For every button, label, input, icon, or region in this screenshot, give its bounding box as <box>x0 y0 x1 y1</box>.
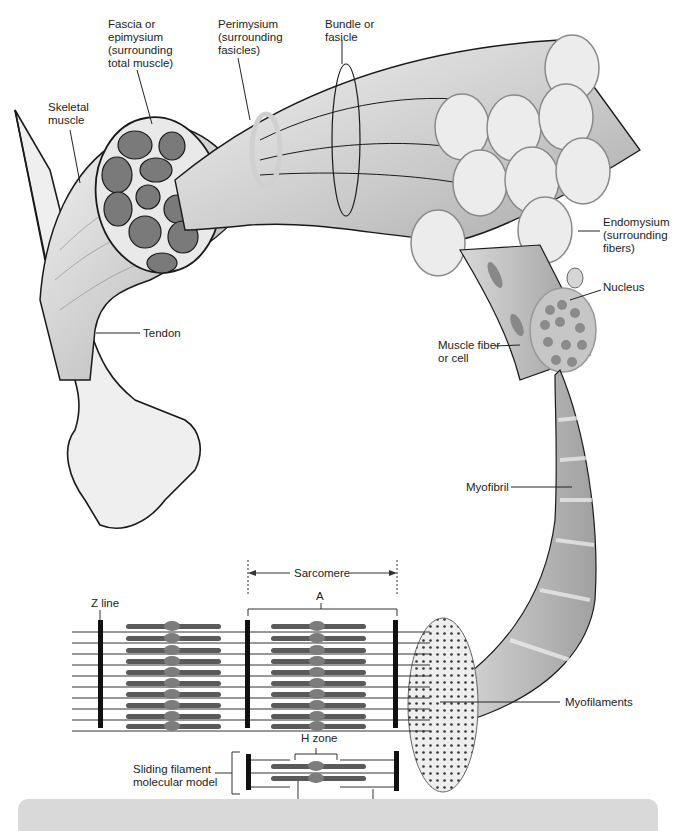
label-bundle: Bundle or fasicle <box>325 18 374 44</box>
label-a-band: A <box>316 590 324 603</box>
bottom-caption-band <box>18 799 658 831</box>
sarcomere-diagram <box>72 560 430 731</box>
label-h-zone: H zone <box>301 732 337 745</box>
label-perimysium: Perimysium (surrounding fasicles) <box>218 18 283 57</box>
sliding-filament-model <box>215 748 399 800</box>
label-myofilaments: Myofilaments <box>565 696 633 709</box>
label-skeletal-muscle: Skeletal muscle <box>48 101 89 127</box>
label-nucleus: Nucleus <box>603 281 645 294</box>
label-tendon: Tendon <box>143 327 181 340</box>
label-z-line: Z line <box>91 597 119 610</box>
label-endomysium: Endomysium (surrounding fibers) <box>603 216 669 255</box>
label-sliding-model: Sliding filament molecular model <box>133 763 217 789</box>
myofibril <box>408 370 596 792</box>
label-sarcomere: Sarcomere <box>294 567 350 580</box>
label-muscle-fiber: Muscle fiber or cell <box>438 339 500 365</box>
label-fascia: Fascia or epimysium (surrounding total m… <box>108 18 173 70</box>
label-myofibril: Myofibril <box>466 481 509 494</box>
